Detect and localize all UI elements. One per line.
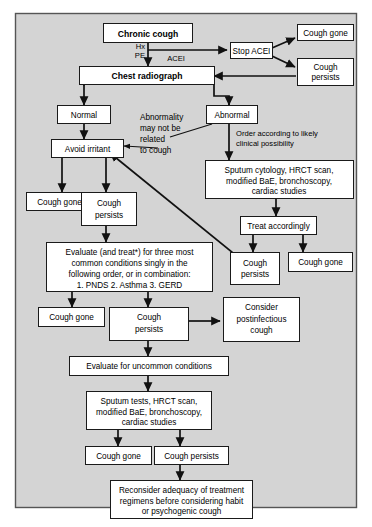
node-sputum-cytology-line3: cardiac studies — [252, 187, 307, 196]
node-cough-persists-uncommon-label: Cough persists — [164, 452, 219, 461]
node-cough-gone-treat-label: Cough gone — [298, 258, 343, 267]
node-cough-persists-irritant[interactable]: Cough persists — [82, 193, 137, 226]
annotation-line1: Abnormality — [140, 113, 184, 122]
node-treat-accordingly[interactable]: Treat accordingly — [241, 217, 317, 235]
node-cough-persists-uncommon[interactable]: Cough persists — [155, 447, 229, 465]
node-cough-persists-acei[interactable]: Cough persists — [298, 59, 354, 86]
node-cough-gone-uncommon-label: Cough gone — [96, 452, 141, 461]
node-reconsider-line2: regimens before considering habit — [120, 497, 244, 506]
node-consider-postinfectious-line1: Consider — [245, 303, 278, 312]
node-chronic-cough-label: Chronic cough — [118, 29, 179, 39]
node-cough-gone-uncommon[interactable]: Cough gone — [86, 447, 152, 465]
node-cough-gone-common[interactable]: Cough gone — [39, 308, 105, 327]
node-evaluate-common-line4: 1. PNDS 2. Asthma 3. GERD — [77, 281, 183, 290]
node-cough-persists-treat-line2: persists — [241, 270, 269, 279]
node-cough-persists-acei-line2: persists — [311, 73, 339, 82]
node-chronic-cough[interactable]: Chronic cough — [104, 24, 193, 43]
annotation-line4: to cough — [140, 146, 172, 155]
node-sputum-tests-line1: Sputum tests, HRCT scan, — [101, 397, 198, 406]
node-cough-persists-common-line1: Cough — [137, 313, 162, 322]
edge-label-order-line2: clinical possibility — [236, 139, 294, 148]
node-evaluate-uncommon[interactable]: Evaluate for uncommon conditions — [70, 357, 229, 376]
node-cough-gone-common-label: Cough gone — [49, 313, 94, 322]
edge-label-pe: PE — [135, 51, 145, 60]
node-avoid-irritant[interactable]: Avoid irritant — [52, 140, 124, 158]
edge-label-order-line1: Order according to likely — [236, 129, 318, 138]
node-normal-label: Normal — [71, 111, 98, 120]
node-chest-radiograph-label: Chest radiograph — [111, 71, 182, 81]
node-sputum-cytology-line1: Sputum cytology, HRCT scan, — [225, 166, 334, 175]
node-cough-gone-acei[interactable]: Cough gone — [298, 25, 354, 41]
node-cough-persists-irritant-line1: Cough — [97, 199, 122, 208]
node-cough-gone-irritant-label: Cough gone — [37, 198, 82, 207]
edge-label-acei: ACEI — [167, 54, 185, 63]
node-sputum-tests-line3: cardiac studies — [122, 418, 177, 427]
node-cough-gone-acei-label: Cough gone — [303, 29, 348, 38]
node-consider-postinfectious-line2: postinfectious — [236, 315, 286, 324]
node-sputum-cytology[interactable]: Sputum cytology, HRCT scan, modified BaE… — [206, 161, 354, 199]
edge-label-hx: Hx — [136, 42, 145, 51]
node-abnormal-label: Abnormal — [214, 111, 249, 120]
node-sputum-tests-line2: modified BaE, bronchoscopy, — [96, 408, 202, 417]
node-consider-postinfectious[interactable]: Consider postinfectious cough — [224, 298, 300, 342]
figure-canvas: Chronic cough Stop ACEI Cough gone Cough… — [0, 0, 372, 527]
node-evaluate-uncommon-label: Evaluate for uncommon conditions — [86, 362, 212, 371]
node-evaluate-common-line3: following order, or in combination: — [69, 270, 191, 279]
annotation-line2: may not be — [140, 124, 181, 133]
node-cough-persists-common[interactable]: Cough persists — [110, 308, 189, 341]
node-evaluate-common-line1: Evaluate (and treat*) for three most — [66, 248, 195, 257]
node-cough-gone-treat[interactable]: Cough gone — [289, 253, 353, 272]
node-stop-acei-label: Stop ACEI — [233, 47, 271, 56]
node-reconsider-line1: Reconsider adequacy of treatment — [119, 486, 245, 495]
node-normal[interactable]: Normal — [58, 106, 111, 124]
node-reconsider[interactable]: Reconsider adequacy of treatment regimen… — [111, 481, 253, 519]
node-evaluate-common-line2: common conditions singly in the — [71, 259, 187, 268]
node-cough-persists-irritant-line2: persists — [95, 211, 123, 220]
node-consider-postinfectious-line3: cough — [250, 326, 273, 335]
node-cough-persists-treat[interactable]: Cough persists — [231, 253, 280, 285]
node-sputum-cytology-line2: modified BaE, bronchoscopy, — [226, 177, 332, 186]
node-cough-persists-common-line2: persists — [135, 325, 163, 334]
node-cough-persists-acei-line1: Cough — [313, 63, 338, 72]
node-abnormal[interactable]: Abnormal — [207, 106, 258, 124]
node-avoid-irritant-label: Avoid irritant — [65, 145, 111, 154]
node-stop-acei[interactable]: Stop ACEI — [231, 43, 273, 59]
annotation-line3: related — [140, 135, 165, 144]
node-treat-accordingly-label: Treat accordingly — [247, 222, 310, 231]
node-evaluate-common[interactable]: Evaluate (and treat*) for three most com… — [47, 243, 213, 292]
node-cough-persists-treat-line1: Cough — [243, 259, 268, 268]
node-chest-radiograph[interactable]: Chest radiograph — [80, 67, 215, 85]
chronic-cough-flowchart: Chronic cough Stop ACEI Cough gone Cough… — [0, 0, 372, 527]
node-reconsider-line3: or psychogenic cough — [142, 507, 222, 516]
node-sputum-tests[interactable]: Sputum tests, HRCT scan, modified BaE, b… — [87, 392, 212, 430]
